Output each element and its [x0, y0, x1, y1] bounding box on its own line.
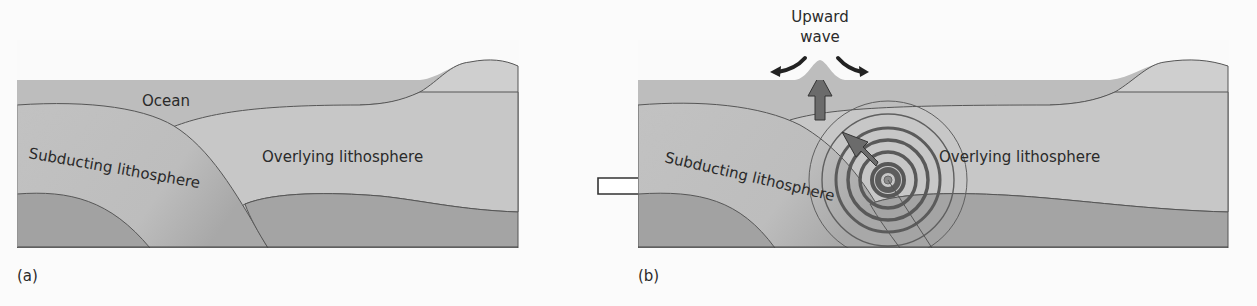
label-wave: wave: [800, 28, 840, 46]
panel-a: [17, 40, 519, 248]
diagram-canvas: Ocean Overlying lithosphere Subducting l…: [0, 0, 1257, 306]
grain-overlay: [17, 40, 519, 248]
label-overlying-a: Overlying lithosphere: [262, 148, 423, 166]
caption-a: (a): [17, 267, 38, 285]
label-upward: Upward: [791, 8, 848, 26]
caption-b: (b): [638, 267, 659, 285]
panel-b: [638, 40, 1229, 259]
figure: Ocean Overlying lithosphere Subducting l…: [0, 0, 1257, 306]
label-ocean: Ocean: [142, 92, 190, 110]
grain-overlay-b: [638, 40, 1229, 248]
label-overlying-b: Overlying lithosphere: [939, 148, 1100, 166]
